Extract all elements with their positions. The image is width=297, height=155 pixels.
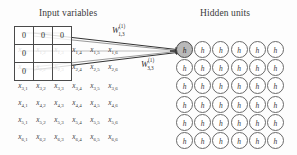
input-patch-cell: 0 [15,45,34,63]
hidden-unit: h [176,132,193,149]
hidden-unit: h [231,59,248,76]
hidden-unit: h [267,41,284,58]
hidden-unit: h [212,114,229,131]
input-patch-row: 0 [15,63,72,81]
input-variable-cell: x3,2 [32,82,50,90]
input-patch-row: 0 [15,45,72,63]
hidden-unit: h [249,77,266,94]
hidden-unit: h [212,77,229,94]
hidden-units-row: hhhhhh [176,130,285,148]
hidden-unit: h [194,114,211,131]
input-variable-cell: x4,1 [14,99,32,107]
hidden-unit-highlighted: h [176,41,193,58]
input-variable-cell: x2,5 [86,63,104,71]
input-variable-cell: x6,1 [14,133,32,141]
hidden-unit: h [176,114,193,131]
hidden-units-row: hhhhhh [176,75,285,93]
input-variable-cell: x1,5 [86,46,104,54]
hidden-unit: h [249,59,266,76]
hidden-unit: h [194,41,211,58]
input-variable-row-3: x3,1x3,2x3,3x3,4x3,5x3,6 [14,82,122,90]
input-variable-cell: x5,2 [32,116,50,124]
hidden-unit: h [249,114,266,131]
input-variable-cell: x3,4 [68,82,86,90]
figure-canvas: Input variables Hidden units x1,1x1,2x1,… [0,0,297,155]
input-patch-body: 00000 [15,27,72,81]
weight-label-bottom: W(1)3,3 [141,58,161,69]
hidden-unit: h [194,96,211,113]
input-patch-table: 00000 [14,26,72,81]
hidden-unit: h [267,114,284,131]
hidden-unit: h [267,59,284,76]
hidden-unit: h [212,132,229,149]
weight-index-subscript: 1,3 [118,31,124,37]
hidden-unit: h [267,132,284,149]
hidden-units-row: hhhhhh [176,94,285,112]
hidden-unit: h [249,96,266,113]
hidden-unit: h [267,96,284,113]
weight-layer-superscript: (1) [119,23,125,29]
input-variable-cell: x6,6 [104,133,122,141]
weight-index-subscript: 3,3 [147,65,153,71]
input-variable-cell: x3,5 [86,82,104,90]
input-variable-cell: x5,3 [50,116,68,124]
hidden-units-grid: hhhhhhhhhhhhhhhhhhhhhhhhhhhhhhhhhhhh [176,39,285,148]
input-patch-cell: 0 [15,63,34,81]
input-patch-cell: 0 [34,27,53,45]
hidden-unit: h [194,132,211,149]
hidden-units-row: hhhhhh [176,112,285,130]
input-variable-cell: x5,5 [86,116,104,124]
input-variable-cell: x4,3 [50,99,68,107]
hidden-unit: h [249,41,266,58]
hidden-unit: h [212,41,229,58]
input-variable-cell: x4,2 [32,99,50,107]
weight-layer-superscript: (1) [148,57,154,63]
hidden-unit: h [194,59,211,76]
input-variable-cell: x1,6 [104,46,122,54]
hidden-unit: h [231,114,248,131]
input-patch-cell [53,45,72,63]
hidden-unit: h [194,77,211,94]
input-variable-cell: x4,5 [86,99,104,107]
hidden-unit: h [176,59,193,76]
hidden-unit: h [212,96,229,113]
input-variable-row-4: x4,1x4,2x4,3x4,4x4,5x4,6 [14,99,122,107]
input-variable-cell: x6,4 [68,133,86,141]
hidden-units-row: hhhhhh [176,39,285,57]
input-variable-cell: x6,2 [32,133,50,141]
hidden-unit: h [231,96,248,113]
hidden-unit: h [176,96,193,113]
input-variable-cell: x3,3 [50,82,68,90]
input-patch-cell [34,45,53,63]
input-variable-cell: x3,6 [104,82,122,90]
input-variable-cell: x4,4 [68,99,86,107]
input-variable-cell: x6,5 [86,133,104,141]
hidden-unit: h [176,77,193,94]
input-patch-cell: 0 [15,27,34,45]
hidden-unit: h [231,132,248,149]
input-variable-cell: x5,1 [14,116,32,124]
weight-label-top: W(1)1,3 [112,24,132,35]
hidden-unit: h [212,59,229,76]
input-variable-cell: x6,3 [50,133,68,141]
input-variable-cell: x3,1 [14,82,32,90]
hidden-unit: h [231,77,248,94]
hidden-unit: h [249,132,266,149]
input-variable-cell: x2,6 [104,63,122,71]
hidden-unit: h [231,41,248,58]
input-patch-cell [53,63,72,81]
input-variable-cell: x5,6 [104,116,122,124]
input-variable-row-6: x6,1x6,2x6,3x6,4x6,5x6,6 [14,133,122,141]
input-variable-cell: x4,6 [104,99,122,107]
input-variable-cell: x5,4 [68,116,86,124]
input-patch-row: 000 [15,27,72,45]
hidden-units-row: hhhhhh [176,57,285,75]
input-patch-cell [34,63,53,81]
input-patch-cell: 0 [53,27,72,45]
input-variable-row-5: x5,1x5,2x5,3x5,4x5,5x5,6 [14,116,122,124]
hidden-unit: h [267,77,284,94]
